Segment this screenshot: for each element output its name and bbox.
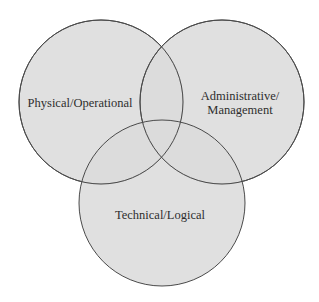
administrative-label-line1: Administrative/ — [201, 89, 280, 103]
technical-logical-label: Technical/Logical — [115, 208, 206, 222]
physical-operational-label: Physical/Operational — [28, 96, 133, 110]
technical-logical-circle — [79, 120, 245, 286]
venn-diagram: Physical/Operational Administrative/ Man… — [0, 0, 319, 302]
management-label-line2: Management — [207, 103, 273, 117]
